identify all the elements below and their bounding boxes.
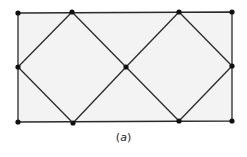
node-BL xyxy=(15,119,20,124)
figure-caption: (a) xyxy=(0,131,247,144)
node-BR xyxy=(229,118,234,123)
node-T2 xyxy=(176,9,181,14)
node-R xyxy=(229,63,234,68)
node-B2 xyxy=(176,118,181,123)
caption-letter: a xyxy=(120,131,127,144)
node-C xyxy=(123,64,128,69)
node-L xyxy=(15,64,20,69)
node-T1 xyxy=(69,9,74,14)
node-TR xyxy=(229,9,234,14)
node-TL xyxy=(15,10,20,15)
node-B1 xyxy=(70,120,75,125)
caption-close-paren: ) xyxy=(127,131,131,144)
